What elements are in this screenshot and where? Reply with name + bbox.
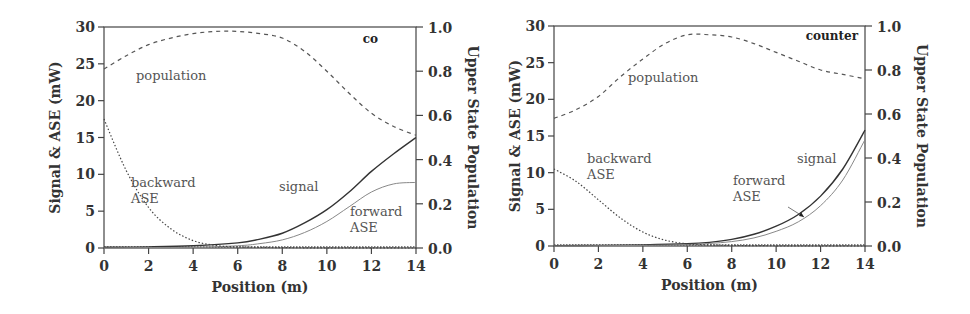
x-tick-label: 8	[277, 258, 287, 274]
annotation-signal: signal	[797, 151, 836, 166]
y2-tick-label: 1.0	[428, 20, 453, 36]
x-tick-label: 0	[99, 258, 109, 274]
x-axis-label: Position (m)	[661, 277, 758, 293]
y-tick-label: 0	[535, 238, 545, 254]
series-signal	[554, 130, 865, 246]
y2-tick-label: 0.8	[877, 63, 901, 79]
y-tick-label: 0	[85, 240, 95, 256]
y2-tick-label: 0.6	[877, 107, 901, 123]
x-tick-label: 8	[727, 256, 737, 272]
annotation-forward-ase: ASE	[732, 189, 761, 204]
y-tick-label: 15	[76, 130, 95, 146]
plot-frame	[554, 26, 865, 246]
x-tick-label: 10	[317, 258, 337, 274]
y2-tick-label: 0.6	[428, 108, 452, 124]
annotation-backward-ase: ASE	[586, 167, 615, 182]
y2-tick-label: 0.2	[877, 195, 901, 211]
x-tick-label: 14	[855, 256, 875, 272]
y2-tick-label: 0.8	[428, 64, 452, 80]
annotation-forward-ase: ASE	[349, 220, 378, 235]
y2-tick-label: 0.2	[428, 197, 452, 213]
y2-tick-label: 0.4	[428, 153, 453, 169]
annotation-forward-ase: forward	[350, 204, 402, 219]
y2-axis-label: Upper State Population	[465, 46, 481, 230]
y-tick-label: 30	[526, 18, 546, 34]
annotation-population: population	[628, 70, 699, 85]
annotation-forward-ase: forward	[733, 173, 785, 188]
y2-axis-label: Upper State Population	[914, 44, 930, 228]
x-tick-label: 4	[638, 256, 648, 272]
y-tick-label: 10	[76, 166, 96, 182]
series-population	[104, 31, 416, 135]
y-tick-label: 10	[526, 165, 546, 181]
y2-tick-label: 0.0	[877, 239, 902, 255]
panel-tag: co	[363, 32, 378, 46]
y-tick-label: 20	[526, 91, 546, 107]
x-tick-label: 6	[233, 258, 243, 274]
y2-tick-label: 0.4	[877, 151, 902, 167]
annotation-signal: signal	[279, 179, 318, 194]
y2-tick-label: 0.0	[428, 241, 453, 257]
x-tick-label: 2	[594, 256, 604, 272]
y2-tick-label: 1.0	[877, 19, 902, 35]
x-tick-label: 4	[188, 258, 198, 274]
y-tick-label: 25	[526, 55, 545, 71]
chart-panel-co: 024681012140510152025300.00.20.40.60.81.…	[47, 19, 481, 295]
chart-panel-counter: 024681012140510152025300.00.20.40.60.81.…	[507, 18, 930, 293]
y-axis-label: Signal & ASE (mW)	[507, 60, 523, 212]
x-tick-label: 2	[144, 258, 154, 274]
y-tick-label: 5	[535, 201, 545, 217]
annotation-backward-ase: backward	[131, 175, 196, 190]
y-tick-label: 25	[76, 56, 95, 72]
x-tick-label: 6	[682, 256, 692, 272]
x-tick-label: 12	[362, 258, 381, 274]
y-tick-label: 20	[76, 93, 96, 109]
x-axis-label: Position (m)	[212, 279, 309, 295]
y-tick-label: 30	[76, 19, 96, 35]
y-tick-label: 15	[526, 128, 545, 144]
x-tick-label: 10	[766, 256, 786, 272]
x-tick-label: 0	[549, 256, 559, 272]
series-population	[554, 34, 865, 118]
y-axis-label: Signal & ASE (mW)	[47, 61, 63, 213]
annotation-backward-ase: backward	[587, 151, 652, 166]
annotation-backward-ase: ASE	[130, 191, 159, 206]
x-tick-label: 12	[811, 256, 830, 272]
x-tick-label: 14	[406, 258, 426, 274]
panel-tag: counter	[806, 29, 859, 43]
annotation-population: population	[136, 68, 207, 83]
chart-canvas: 024681012140510152025300.00.20.40.60.81.…	[0, 0, 970, 314]
y-tick-label: 5	[85, 203, 95, 219]
